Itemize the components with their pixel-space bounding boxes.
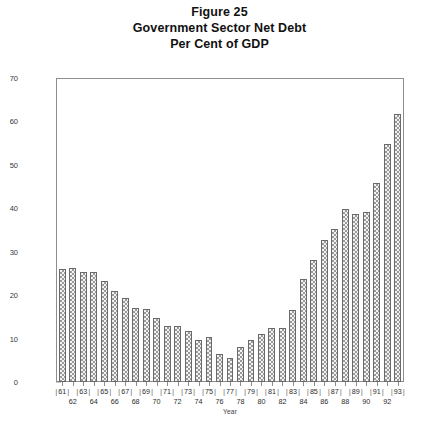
bar [185,331,192,382]
x-axis-tick-label: |85| [303,387,325,396]
x-label-text: 83 [289,387,297,396]
x-axis-tick-label: 64 [83,397,105,406]
x-axis-tick-mark [220,382,221,386]
figure-25-chart: Figure 25 Government Sector Net Debt Per… [0,0,439,430]
x-label-text: 89 [352,387,360,396]
bar [321,240,328,382]
x-label-text: 75 [205,387,213,396]
x-axis-tick-label: |65| [93,387,115,396]
x-axis-tick-label: 80 [250,397,272,406]
x-axis-tick-mark [62,382,63,386]
x-axis-tick-label: 76 [209,397,231,406]
x-label-text: 71 [163,387,171,396]
x-label-separator: | [150,387,154,396]
x-axis-tick-label: |89| [345,387,367,396]
x-label-text: 69 [142,387,150,396]
bar [101,281,108,382]
x-axis-tick-mark [73,382,74,386]
bar [373,183,380,382]
x-axis-tick-label: 66 [104,397,126,406]
x-label-separator: | [171,387,175,396]
x-axis-tick-mark [104,382,105,386]
bar [195,340,202,382]
x-label-text: 63 [79,387,87,396]
bar [279,328,286,382]
bar [258,334,265,382]
chart-title-block: Figure 25 Government Sector Net Debt Per… [0,4,439,52]
x-axis-tick-mark [230,382,231,386]
y-axis-tick-label: 30 [0,247,18,256]
bar [122,298,129,382]
y-axis-tick-label: 20 [0,291,18,300]
x-axis-tick-label: |69| [135,387,157,396]
x-axis-tick-label: |67| [114,387,136,396]
bar [248,340,255,382]
x-axis-tick-mark [188,382,189,386]
x-axis-tick-mark [167,382,168,386]
x-label-separator: | [108,387,112,396]
x-axis-tick-label: |83| [282,387,304,396]
x-label-separator: | [213,387,217,396]
x-label-text: 93 [394,387,402,396]
x-axis-tick-mark [240,382,241,386]
x-axis-tick-mark [199,382,200,386]
x-label-separator: | [318,387,322,396]
x-axis-tick-label: |79| [240,387,262,396]
x-axis-tick-mark [293,382,294,386]
figure-number: Figure 25 [0,4,439,20]
y-axis-tick-label: 60 [0,117,18,126]
bar [331,229,338,382]
x-axis-tick-mark [398,382,399,386]
bar [174,326,181,382]
bar [300,279,307,382]
bar [80,272,87,382]
y-axis: 010203040506070 [0,0,56,430]
x-axis-tick-mark [94,382,95,386]
bar [342,209,349,382]
x-label-separator: | [129,387,133,396]
x-label-text: 73 [184,387,192,396]
x-axis-tick-label: |61| [51,387,73,396]
x-axis-tick-label: 62 [62,397,84,406]
x-axis-tick-label: |63| [72,387,94,396]
x-label-separator: | [234,387,238,396]
x-axis-tick-label: |91| [366,387,388,396]
x-axis-tick-label: |81| [261,387,283,396]
x-label-separator: | [360,387,364,396]
x-label-text: 87 [331,387,339,396]
x-label-text: 79 [247,387,255,396]
x-label-text: 67 [121,387,129,396]
y-axis-tick-label: 10 [0,334,18,343]
x-axis-tick-label: |73| [177,387,199,396]
x-axis-tick-mark [303,382,304,386]
x-label-separator: | [381,387,385,396]
x-label-separator: | [66,387,70,396]
x-axis-tick-mark [345,382,346,386]
x-axis-tick-mark [178,382,179,386]
x-axis-tick-label: 70 [146,397,168,406]
x-label-separator: | [339,387,343,396]
bar [310,260,317,382]
y-axis-tick-label: 40 [0,204,18,213]
y-axis-tick-label: 70 [0,74,18,83]
x-label-text: 77 [226,387,234,396]
x-axis-title: Year [57,408,403,415]
bar [394,114,401,382]
x-axis-tick-mark [314,382,315,386]
bar [111,291,118,382]
bar [164,326,171,382]
x-axis-tick-label: |87| [324,387,346,396]
x-label-separator: | [402,387,406,396]
x-axis-tick-mark [146,382,147,386]
x-axis-tick-label: 90 [355,397,377,406]
x-axis-tick-mark [356,382,357,386]
y-axis-tick-label: 50 [0,160,18,169]
chart-title: Government Sector Net Debt [0,20,439,36]
x-label-text: 65 [100,387,108,396]
bar [132,308,139,382]
x-axis-tick-label: 74 [188,397,210,406]
x-label-text: 61 [58,387,66,396]
x-axis-tick-mark [387,382,388,386]
x-axis-tick-label: 82 [271,397,293,406]
bar [268,328,275,382]
